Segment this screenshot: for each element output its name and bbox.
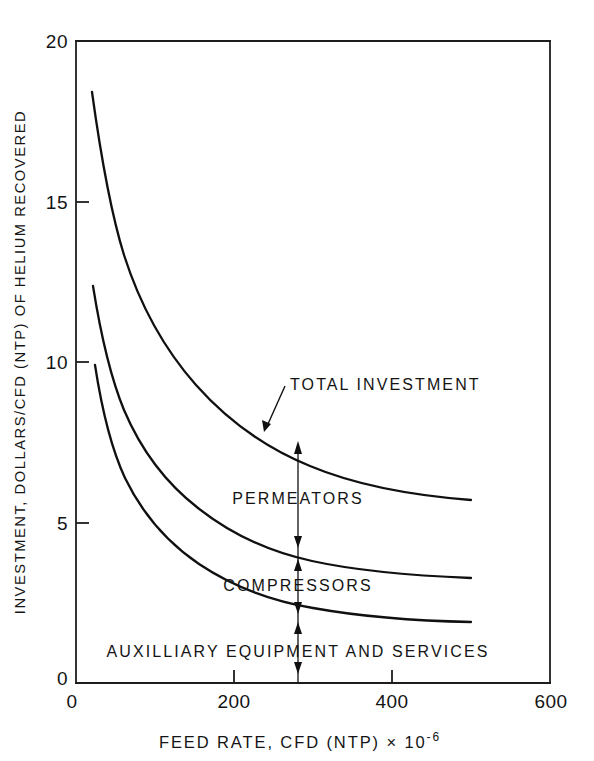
leader-line bbox=[268, 386, 285, 424]
data-curves bbox=[92, 92, 471, 622]
x-tick-label-0: 0 bbox=[66, 691, 77, 712]
y-tick-label-10: 10 bbox=[46, 352, 68, 373]
y-tick-labels: 20 15 10 5 0 bbox=[46, 31, 68, 689]
figure-container: 20 15 10 5 0 0 200 400 600 bbox=[0, 0, 594, 761]
y-tick-label-0: 0 bbox=[57, 668, 68, 689]
x-axis-title: FEED RATE, CFD (NTP) × 10-6 bbox=[159, 730, 441, 751]
arrowhead-down-permeators bbox=[294, 536, 302, 548]
x-tick-label-200: 200 bbox=[217, 691, 250, 712]
x-axis-ticks bbox=[234, 670, 392, 683]
y-tick-label-20: 20 bbox=[46, 31, 68, 52]
arrowhead-down-axis bbox=[294, 662, 302, 674]
x-axis-title-group: FEED RATE, CFD (NTP) × 10-6 bbox=[159, 730, 441, 751]
arrowhead-up-compressors bbox=[294, 622, 302, 634]
label-total-investment: TOTAL INVESTMENT bbox=[290, 376, 481, 393]
total-investment-leader bbox=[262, 386, 285, 432]
x-tick-label-400: 400 bbox=[375, 691, 408, 712]
y-tick-label-5: 5 bbox=[57, 513, 68, 534]
label-compressors: COMPRESSORS bbox=[223, 577, 372, 594]
label-auxilliary-equipment: AUXILLIARY EQUIPMENT AND SERVICES bbox=[107, 643, 490, 660]
x-tick-labels: 0 200 400 600 bbox=[66, 691, 567, 712]
y-axis-ticks bbox=[76, 202, 89, 523]
curve-permeators bbox=[93, 286, 471, 578]
curve-total-investment bbox=[92, 92, 471, 500]
arrowhead-down-compressors bbox=[294, 602, 302, 614]
y-tick-label-15: 15 bbox=[46, 192, 68, 213]
label-permeators: PERMEATORS bbox=[232, 490, 364, 507]
arrowhead-up-total bbox=[294, 441, 302, 454]
chart-svg: 20 15 10 5 0 0 200 400 600 bbox=[0, 0, 594, 761]
y-axis-title-group: INVESTMENT, DOLLARS/CFD (NTP) OF HELIUM … bbox=[12, 110, 28, 614]
x-tick-label-600: 600 bbox=[534, 691, 567, 712]
y-axis-title: INVESTMENT, DOLLARS/CFD (NTP) OF HELIUM … bbox=[12, 110, 28, 614]
arrowhead-up-permeators bbox=[294, 559, 302, 571]
x-axis-title-exponent: -6 bbox=[427, 730, 441, 744]
x-axis-title-text: FEED RATE, CFD (NTP) × 10 bbox=[159, 733, 427, 751]
